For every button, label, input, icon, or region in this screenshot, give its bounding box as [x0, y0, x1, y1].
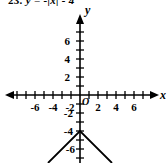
y-tick-label-2: 2	[65, 71, 71, 83]
x-axis-label: x	[159, 88, 166, 102]
y-tick-label--6: -6	[66, 143, 76, 155]
y-tick-label--2: -2	[64, 107, 74, 119]
coordinate-plane: -6 -4 -2 2 4 6 6 4 2 -2 -4 -6 O y x	[0, 0, 167, 163]
x-tick-label-2: 2	[95, 101, 101, 113]
y-tick-label-4: 4	[65, 53, 71, 65]
x-tick-label--4: -4	[48, 101, 58, 113]
x-axis-left-arrowhead	[5, 91, 14, 99]
x-tick-label-6: 6	[131, 101, 137, 113]
y-axis-top-arrowhead	[76, 14, 84, 24]
y-tick-label-6: 6	[65, 35, 71, 47]
origin-label: O	[82, 96, 89, 107]
x-tick-label-4: 4	[113, 101, 119, 113]
x-axis-right-arrowhead	[150, 91, 159, 99]
x-tick-label--6: -6	[30, 101, 40, 113]
y-tick-label--4: -4	[64, 125, 74, 137]
graph-figure: 23. y = -|x| - 4	[0, 0, 167, 163]
y-axis-label: y	[83, 3, 91, 17]
